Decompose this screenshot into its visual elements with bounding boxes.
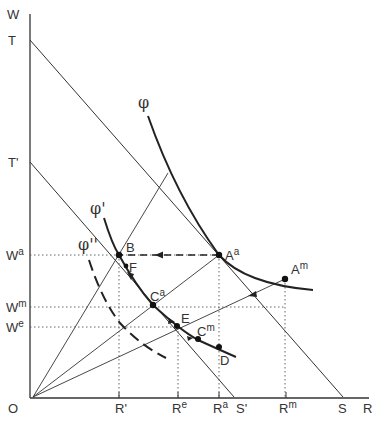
point-D (216, 344, 222, 350)
point-E (174, 323, 180, 329)
Cm-label: Cm (197, 322, 215, 339)
economic-diagram: W R O T T' S S' Wa Wm We R' Re Ra Rm φ φ… (0, 0, 382, 422)
budget-lines (30, 40, 343, 397)
We-label: We (6, 318, 24, 335)
phi-prime-curve (104, 218, 236, 357)
D-label: D (220, 353, 229, 368)
point-Am (282, 276, 288, 282)
x-axis-label: R (363, 401, 372, 416)
point-F (124, 264, 129, 269)
budget-line-T'S' (30, 162, 234, 397)
phi-prime-label: φ' (90, 199, 106, 218)
point-Aa (216, 252, 222, 258)
S-label: S (338, 401, 347, 416)
phi-label: φ (138, 93, 149, 112)
guide-lines (30, 255, 285, 398)
Aa-label: Aa (225, 246, 240, 263)
Ca-label: Ca (150, 287, 165, 304)
Ra-label: Ra (213, 399, 228, 416)
rays (33, 173, 285, 397)
Rm-label: Rm (279, 399, 297, 416)
R-prime-label: R' (115, 401, 127, 416)
y-axis-label: W (7, 7, 20, 22)
Re-label: Re (172, 399, 187, 416)
arrow-Aa-to-B (121, 252, 219, 259)
S-prime-label: S' (236, 401, 247, 416)
T-prime-label: T' (8, 155, 18, 170)
E-label: E (181, 311, 190, 326)
Wa-label: Wa (6, 246, 24, 263)
origin-label: O (8, 401, 18, 416)
F-label: F (129, 260, 137, 275)
x-ticks (119, 392, 286, 398)
arrow-ray-Am (248, 291, 257, 297)
B-label: B (126, 240, 135, 255)
Am-label: Am (291, 260, 308, 277)
Wm-label: Wm (6, 298, 27, 315)
budget-line-TS (30, 40, 343, 397)
point-B (116, 252, 122, 258)
ray-to-Aa (33, 255, 219, 397)
T-label: T (8, 33, 16, 48)
phi-double-prime-label: φ'' (78, 235, 98, 254)
